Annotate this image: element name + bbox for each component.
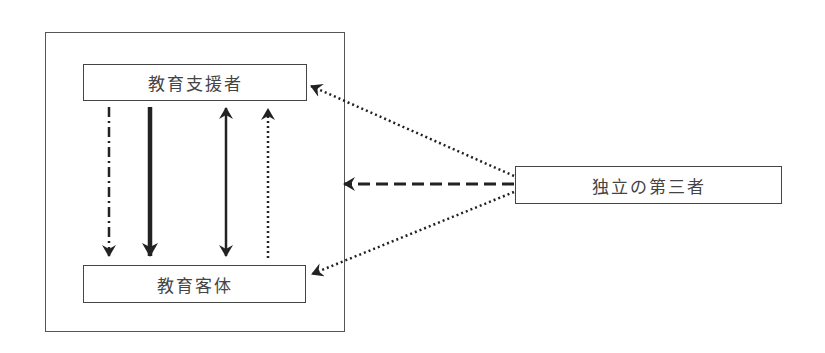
arrow-dotted-to-supporter [311,86,514,176]
arrows-layer [0,0,825,353]
diagram-canvas: 教育支援者 教育客体 独立の第三者 [0,0,825,353]
arrow-dotted-to-object [312,192,514,274]
